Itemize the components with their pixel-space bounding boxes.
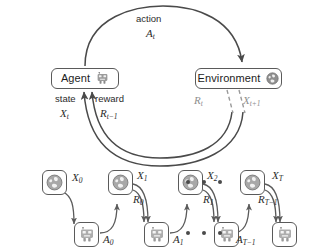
env-reward-label: Rt (194, 95, 203, 107)
state-label-text: state (55, 94, 76, 104)
robot-icon (79, 227, 95, 243)
reward-label-math: Rt−1 (100, 108, 117, 120)
ellipsis-dot (202, 231, 206, 235)
timeline-state-label-last: XT (272, 170, 283, 182)
timeline-agent-node-last[interactable] (272, 222, 297, 247)
ellipsis-bottom-row (186, 231, 222, 235)
agent-box[interactable]: Agent (51, 68, 119, 89)
diagram-canvas: Agent Environment (0, 0, 310, 251)
timeline-env-node-0[interactable] (42, 170, 67, 195)
timeline-reward-label-last: RT−1 (258, 194, 277, 206)
timeline-reward-label-2: R1 (203, 194, 213, 206)
timeline-action-label-0: A0 (103, 234, 113, 246)
timeline-reward-label-1: R0 (133, 194, 143, 206)
globe-icon (46, 174, 63, 191)
state-label-math: Xt (60, 108, 69, 120)
globe-icon (112, 174, 129, 191)
ellipsis-top-row (186, 180, 222, 184)
timeline-arrow-state-0 (63, 192, 74, 224)
globe-icon (266, 72, 279, 85)
robot-icon (277, 227, 293, 243)
timeline-env-node-last[interactable] (240, 170, 265, 195)
env-state-label: Xt+1 (243, 95, 260, 107)
env-state-subscript: t+1 (250, 99, 261, 108)
reward-subscript: t−1 (107, 112, 118, 121)
action-subscript: t (153, 32, 155, 41)
agent-label: Agent (61, 73, 90, 84)
env-reward-symbol: R (194, 94, 201, 106)
globe-icon (244, 174, 261, 191)
timeline-arrow-action-0 (100, 204, 117, 233)
action-symbol: A (146, 27, 153, 39)
reward-symbol: R (100, 107, 107, 119)
env-state-symbol: X (243, 94, 250, 106)
timeline-arrow-action-1 (170, 204, 187, 233)
reward-label-text: reward (95, 94, 124, 104)
environment-box[interactable]: Environment (195, 68, 282, 89)
timeline-action-label-1: A1 (173, 234, 183, 246)
environment-label: Environment (198, 73, 261, 84)
action-label-text: action (136, 14, 161, 24)
ellipsis-dot (202, 180, 206, 184)
state-symbol: X (60, 107, 67, 119)
env-reward-subscript: t (201, 99, 203, 108)
ellipsis-dot (186, 180, 190, 184)
ellipsis-dot (186, 231, 190, 235)
timeline-state-label-0: X0 (72, 172, 82, 184)
timeline-action-label-last: AT−1 (236, 234, 255, 246)
robot-icon (149, 227, 165, 243)
reward-dashed-connector (227, 90, 233, 113)
timeline-agent-node-0[interactable] (74, 222, 99, 247)
action-label-math: At (146, 28, 155, 40)
action-arc (85, 6, 242, 66)
timeline-env-node-1[interactable] (108, 170, 133, 195)
ellipsis-dot (218, 180, 222, 184)
timeline-agent-node-1[interactable] (144, 222, 169, 247)
robot-icon (96, 72, 109, 85)
diagram-vector-layer (0, 0, 310, 251)
state-subscript: t (67, 112, 69, 121)
ellipsis-dot (218, 231, 222, 235)
timeline-state-label-1: X1 (137, 170, 147, 182)
